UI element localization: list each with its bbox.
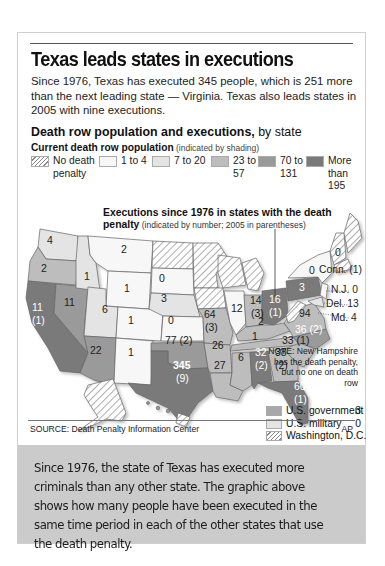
new-hampshire-note: NOTE: New Hampshire has the death penalt… [268,346,358,388]
state-maine [344,213,362,253]
swatch-icon [266,406,282,416]
label-tennessee: 1 [252,330,258,342]
label-nevada: 11 [64,296,75,308]
label-california-2005: (1) [32,314,45,326]
label-new-mexico: 1 [128,346,134,358]
caption-text: Since 1976, the state of Texas has execu… [34,458,341,553]
label-idaho: 1 [84,270,90,282]
legend-row-label: Washington, D.C. [286,430,366,441]
label-oklahoma: 77 (2) [165,334,192,346]
label-ohio: 16 [269,293,281,305]
state-iowa [194,288,226,309]
label-illinois: 12 [231,302,243,314]
executions-legend-title: Executions since 1976 in states with the… [103,207,333,231]
state-south-dakota [151,268,194,295]
hatch-swatch-icon [266,431,282,441]
label-south-dakota: 0 [159,272,165,284]
legend-row-value: 0 [355,418,361,429]
label-alabama: 32 [255,346,267,358]
label-california: 11 [32,301,43,313]
label-texas: 345 [173,359,191,371]
legend-row-label: U.S. government [286,405,363,416]
credit-text: AP [342,424,353,434]
label-new-york: 0 [309,264,315,276]
label-colorado: 1 [128,314,134,326]
legend-row-us-government: U.S. government 3 [266,405,361,418]
label-louisiana: 27 [214,359,226,371]
label-virginia: 94 [299,307,311,319]
callout-maryland: Md. 4 [331,312,357,323]
label-new-hampshire: 0 [335,246,341,258]
label-missouri: 64 [204,308,216,320]
label-north-carolina: 36 (2) [295,323,322,335]
label-florida-2005: (1) [294,393,307,405]
label-texas-2005: (9) [176,372,189,384]
label-oregon: 2 [41,262,47,274]
label-alabama-2005: (2) [255,359,268,371]
label-south-carolina: 33 (1) [282,334,309,346]
label-arizona: 22 [90,344,102,356]
label-mississippi: 6 [238,351,244,363]
state-north-dakota [152,241,193,269]
label-wyoming: 1 [124,282,130,294]
legend-row-value: 3 [355,405,361,416]
infographic-frame: Texas leads states in executions Since 1… [17,32,366,544]
source-text: SOURCE: Death Penalty Information Center [30,424,199,434]
state-wisconsin [218,255,246,288]
infographic: Texas leads states in executions Since 1… [18,33,365,443]
callout-new-jersey: N.J. 0 [331,284,358,295]
label-pennsylvania: 3 [299,281,305,293]
label-kansas: 0 [168,314,174,326]
callout-connecticut: Conn. (1) [319,264,362,275]
caption-panel: Since 1976, the state of Texas has execu… [18,445,365,543]
label-arkansas: 26 [212,339,224,351]
label-nebraska: 3 [161,292,167,304]
source-divider [28,420,355,421]
label-montana: 2 [121,243,127,255]
state-michigan [242,258,264,291]
executions-title-note: (indicated by number; 2005 in parenthese… [139,220,305,230]
label-ohio-2005: (1) [269,306,282,318]
callout-delaware: Del. 13 [326,298,359,309]
label-missouri-2005: (3) [205,321,218,333]
label-indiana: 14 [250,294,262,306]
label-washington: 4 [47,234,53,246]
label-utah: 6 [102,303,108,315]
label-kentucky: 2 [258,315,264,327]
